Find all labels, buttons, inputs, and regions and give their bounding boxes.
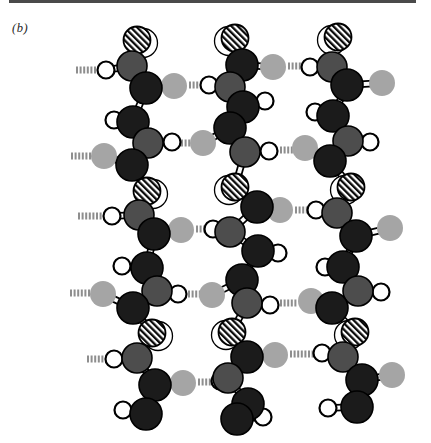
hbond-tick bbox=[98, 356, 100, 363]
hbond-tick bbox=[188, 140, 190, 147]
hydrogen-bond bbox=[76, 67, 100, 74]
hbond-tick bbox=[304, 351, 306, 358]
hbond-tick bbox=[200, 226, 202, 233]
hbond-tick bbox=[76, 67, 78, 74]
hbond-tick bbox=[71, 153, 73, 160]
carbon-atom bbox=[138, 218, 170, 250]
oxygen-atom bbox=[91, 143, 117, 169]
hydrogen-atom bbox=[114, 258, 131, 275]
hbond-tick bbox=[280, 300, 282, 307]
hbond-tick bbox=[280, 147, 282, 154]
hbond-tick bbox=[89, 213, 91, 220]
hbond-tick bbox=[196, 82, 198, 89]
hbond-tick bbox=[78, 213, 80, 220]
chain-1 bbox=[90, 27, 196, 431]
molecular-diagram bbox=[0, 0, 431, 443]
oxygen-atom bbox=[190, 130, 216, 156]
hydrogen-atom bbox=[164, 134, 181, 151]
hydrogen-bond bbox=[290, 351, 314, 358]
hbond-tick bbox=[198, 379, 200, 386]
top-rule bbox=[9, 0, 416, 3]
hbond-tick bbox=[195, 291, 197, 298]
hydrogen-bond bbox=[78, 213, 105, 220]
hbond-tick bbox=[100, 213, 102, 220]
hbond-tick bbox=[284, 147, 286, 154]
chain-2 bbox=[190, 25, 293, 436]
carbon-atom bbox=[130, 398, 162, 430]
hbond-tick bbox=[83, 67, 85, 74]
side-group-atom bbox=[222, 25, 249, 52]
hbond-tick bbox=[295, 207, 297, 214]
hbond-tick bbox=[292, 63, 294, 70]
hbond-tick bbox=[290, 351, 292, 358]
carbon-atom bbox=[340, 220, 372, 252]
hbond-tick bbox=[96, 213, 98, 220]
carbon-atom bbox=[242, 235, 274, 267]
oxygen-atom bbox=[161, 73, 187, 99]
hbond-tick bbox=[189, 82, 191, 89]
hbond-tick bbox=[287, 147, 289, 154]
nitrogen-atom bbox=[215, 217, 245, 247]
hbond-tick bbox=[92, 213, 94, 220]
hbond-tick bbox=[77, 290, 79, 297]
oxygen-atom bbox=[379, 362, 405, 388]
hydrogen-atom bbox=[104, 208, 121, 225]
side-group-atom bbox=[139, 320, 166, 347]
hbond-tick bbox=[188, 291, 190, 298]
hbond-tick bbox=[297, 351, 299, 358]
hydrogen-atom bbox=[98, 62, 115, 79]
oxygen-atom bbox=[377, 215, 403, 241]
hbond-tick bbox=[308, 351, 310, 358]
hbond-tick bbox=[299, 207, 301, 214]
carbon-atom bbox=[139, 369, 171, 401]
oxygen-atom bbox=[260, 54, 286, 80]
hbond-tick bbox=[294, 300, 296, 307]
side-group-atom bbox=[338, 174, 365, 201]
oxygen-atom bbox=[90, 281, 116, 307]
figure-panel: (b) bbox=[0, 0, 431, 443]
hbond-tick bbox=[91, 356, 93, 363]
hbond-tick bbox=[89, 153, 91, 160]
hbond-tick bbox=[94, 356, 96, 363]
hbond-tick bbox=[85, 213, 87, 220]
hbond-tick bbox=[82, 153, 84, 160]
hbond-tick bbox=[205, 379, 207, 386]
nitrogen-atom bbox=[213, 363, 243, 393]
hbond-tick bbox=[192, 291, 194, 298]
carbon-atom bbox=[221, 403, 253, 435]
carbon-atom bbox=[331, 69, 363, 101]
carbon-atom bbox=[117, 292, 149, 324]
hydrogen-atom bbox=[373, 284, 390, 301]
carbon-atom bbox=[341, 391, 373, 423]
hbond-tick bbox=[84, 290, 86, 297]
hydrogen-atom bbox=[302, 59, 319, 76]
carbon-atom bbox=[116, 149, 148, 181]
hbond-tick bbox=[185, 140, 187, 147]
hbond-tick bbox=[294, 351, 296, 358]
nitrogen-atom bbox=[122, 343, 152, 373]
hbond-tick bbox=[302, 207, 304, 214]
hbond-tick bbox=[295, 63, 297, 70]
hbond-tick bbox=[193, 82, 195, 89]
oxygen-atom bbox=[168, 217, 194, 243]
hbond-tick bbox=[287, 300, 289, 307]
hbond-tick bbox=[291, 300, 293, 307]
hbond-tick bbox=[284, 300, 286, 307]
hydrogen-bond bbox=[280, 300, 296, 307]
hbond-tick bbox=[94, 67, 96, 74]
hbond-tick bbox=[288, 63, 290, 70]
oxygen-atom bbox=[199, 282, 225, 308]
hbond-tick bbox=[301, 351, 303, 358]
side-group-atom bbox=[124, 27, 151, 54]
hbond-tick bbox=[196, 226, 198, 233]
hbond-tick bbox=[87, 356, 89, 363]
hbond-tick bbox=[202, 379, 204, 386]
hbond-tick bbox=[80, 67, 82, 74]
oxygen-atom bbox=[170, 370, 196, 396]
carbon-atom bbox=[314, 145, 346, 177]
hbond-tick bbox=[78, 153, 80, 160]
hbond-tick bbox=[75, 153, 77, 160]
hbond-tick bbox=[74, 290, 76, 297]
hbond-tick bbox=[81, 290, 83, 297]
hydrogen-atom bbox=[261, 143, 278, 160]
